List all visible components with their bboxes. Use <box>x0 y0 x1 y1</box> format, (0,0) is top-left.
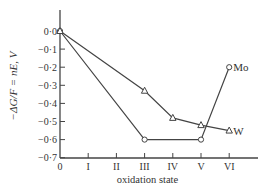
series-label-mo: Mo <box>233 61 249 73</box>
x-tick-label: II <box>113 161 120 172</box>
x-tick-label: 0 <box>58 161 63 172</box>
x-tick-label: VI <box>224 161 235 172</box>
series-label-w: W <box>233 125 244 137</box>
y-tick-label: −0·1 <box>38 44 57 55</box>
x-tick-label: III <box>140 161 150 172</box>
y-tick-label: −0·4 <box>38 98 57 109</box>
circle-marker <box>142 137 147 142</box>
y-tick-label: −0·3 <box>38 80 57 91</box>
series-line-w <box>60 31 229 131</box>
y-tick-label: −0·6 <box>38 134 57 145</box>
triangle-marker <box>141 87 147 93</box>
x-tick-label: IV <box>168 161 179 172</box>
y-tick-label: −0·2 <box>38 62 57 73</box>
y-tick-label: −0·7 <box>38 152 57 163</box>
circle-marker <box>227 65 232 70</box>
x-tick-label: I <box>87 161 90 172</box>
x-axis-label: oxidation state <box>117 174 179 185</box>
x-tick-label: V <box>197 161 205 172</box>
y-tick-label: −0·5 <box>38 116 57 127</box>
y-tick-label: 0·0 <box>44 26 57 37</box>
series-line-mo <box>60 31 229 140</box>
frost-diagram: 0·0−0·1−0·2−0·3−0·4−0·5−0·6−0·70IIIIIIIV… <box>0 0 266 193</box>
circle-marker <box>198 137 203 142</box>
